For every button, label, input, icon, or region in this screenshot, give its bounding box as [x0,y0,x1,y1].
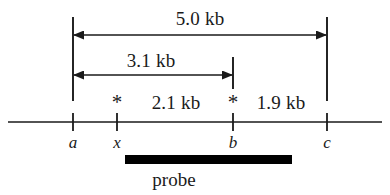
measure-label-total: 5.0 kb [176,9,225,28]
probe-bar [125,155,292,164]
locus-label-a: a [69,134,78,151]
measure-label-b-to-c: 1.9 kb [257,93,306,112]
asterisk-marker-b: * [228,92,239,113]
locus-label-c: c [323,134,331,151]
measure-label-a-to-b: 3.1 kb [127,51,176,70]
probe-label: probe [152,170,195,189]
asterisk-marker-x: * [112,92,123,113]
locus-label-b: b [229,134,238,151]
locus-label-x: x [113,134,121,151]
restriction-map-figure: 5.0 kb 3.1 kb 2.1 kb 1.9 kb * * a x b c … [0,0,390,195]
measure-label-x-to-b: 2.1 kb [152,93,201,112]
